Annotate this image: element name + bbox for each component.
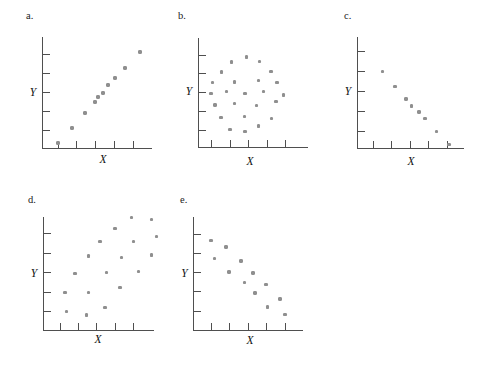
data-point xyxy=(233,80,237,84)
data-point xyxy=(225,90,229,94)
scatter-panel-b: b. Y X xyxy=(0,0,486,370)
data-point xyxy=(213,103,217,107)
y-axis-label: Y xyxy=(30,87,36,99)
x-axis-tick xyxy=(285,323,286,330)
scatter-panel-d: d. Y X xyxy=(0,0,486,370)
y-axis-tick xyxy=(358,71,365,72)
x-axis-tick xyxy=(114,141,115,148)
panel-letter: d. xyxy=(28,195,36,206)
x-axis-tick xyxy=(133,141,134,148)
data-point xyxy=(63,291,67,295)
data-point xyxy=(209,92,213,96)
y-axis-tick xyxy=(358,111,365,112)
data-point xyxy=(278,297,282,301)
x-axis-tick xyxy=(285,140,286,147)
data-point xyxy=(209,239,213,243)
data-point xyxy=(87,291,91,295)
data-point xyxy=(245,55,249,59)
data-point xyxy=(213,257,217,261)
data-point xyxy=(150,253,154,257)
data-point xyxy=(239,259,243,263)
x-axis-label: X xyxy=(246,156,253,168)
data-point xyxy=(258,60,262,64)
data-point xyxy=(257,124,261,128)
data-point xyxy=(227,270,231,274)
x-axis xyxy=(198,147,309,148)
data-point xyxy=(404,97,408,101)
data-point xyxy=(150,218,154,222)
data-point xyxy=(283,313,287,317)
data-point xyxy=(101,91,105,95)
data-point xyxy=(85,313,89,317)
x-axis-tick xyxy=(133,323,134,330)
y-axis-tick xyxy=(199,111,206,112)
data-point xyxy=(243,115,247,119)
y-axis-tick xyxy=(199,55,206,56)
y-axis-tick xyxy=(194,272,201,273)
data-point xyxy=(96,95,100,99)
panel-letter: b. xyxy=(178,11,186,22)
y-axis xyxy=(357,37,358,149)
panel-letter: a. xyxy=(26,11,33,22)
scatter-panel-c: c. Y X xyxy=(0,0,486,370)
data-point xyxy=(253,291,257,295)
data-point xyxy=(410,104,414,108)
x-axis-tick xyxy=(78,323,79,330)
x-axis-tick xyxy=(96,323,97,330)
data-point xyxy=(56,141,60,145)
data-point xyxy=(257,79,261,83)
panel-letter: c. xyxy=(344,11,351,22)
x-axis-tick xyxy=(95,141,96,148)
data-point xyxy=(251,271,255,275)
data-point xyxy=(132,240,136,244)
x-axis xyxy=(42,148,153,149)
data-point xyxy=(83,111,87,115)
y-axis-tick xyxy=(43,130,50,131)
data-point xyxy=(243,92,247,96)
y-axis-tick xyxy=(44,292,51,293)
y-axis-tick xyxy=(44,253,51,254)
data-point xyxy=(423,117,427,121)
figure-canvas: a. Y X b. Y X c. Y X d. Y X e. Y X xyxy=(0,0,486,370)
y-axis-tick xyxy=(358,91,365,92)
x-axis-tick xyxy=(60,323,61,330)
x-axis-tick xyxy=(58,141,59,148)
panel-letter: e. xyxy=(180,195,187,206)
y-axis-tick xyxy=(199,130,206,131)
x-axis-tick xyxy=(248,323,249,330)
x-axis-tick xyxy=(211,323,212,330)
x-axis-tick xyxy=(428,141,429,148)
x-axis-tick xyxy=(266,323,267,330)
data-point xyxy=(381,70,385,74)
y-axis-tick xyxy=(44,272,51,273)
data-point xyxy=(138,50,142,54)
x-axis-tick xyxy=(230,140,231,147)
data-point xyxy=(220,70,224,74)
y-axis-tick xyxy=(199,73,206,74)
data-point xyxy=(219,116,223,120)
y-axis-label: Y xyxy=(345,86,351,98)
y-axis-tick xyxy=(358,51,365,52)
data-point xyxy=(130,216,134,220)
data-point xyxy=(230,60,234,64)
y-axis-tick xyxy=(194,291,201,292)
y-axis-label: Y xyxy=(186,86,192,98)
data-point xyxy=(224,245,228,249)
data-point xyxy=(98,240,102,244)
y-axis xyxy=(198,38,199,148)
data-point xyxy=(123,66,127,70)
y-axis-tick xyxy=(43,73,50,74)
data-point xyxy=(93,100,97,104)
data-point xyxy=(243,130,247,134)
y-axis-tick xyxy=(43,111,50,112)
data-point xyxy=(255,104,259,108)
x-axis xyxy=(357,148,465,149)
data-point xyxy=(233,102,237,106)
data-point xyxy=(274,100,278,104)
data-point xyxy=(275,81,279,85)
y-axis-tick xyxy=(358,131,365,132)
x-axis-label: X xyxy=(246,335,253,347)
y-axis xyxy=(43,217,44,331)
data-point xyxy=(137,270,141,274)
y-axis-tick xyxy=(194,253,201,254)
